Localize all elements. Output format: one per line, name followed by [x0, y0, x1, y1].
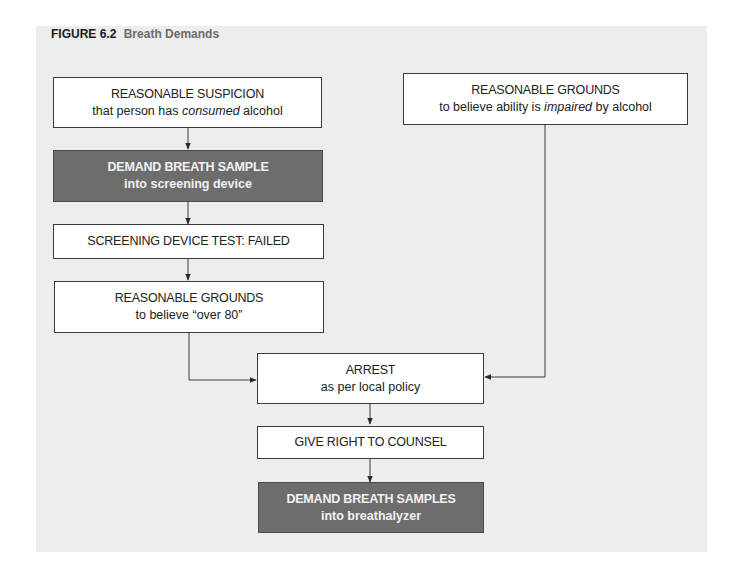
node-arrest: ARREST as per local policy	[257, 353, 484, 404]
node-heading: REASONABLE GROUNDS	[55, 290, 323, 307]
arrow-over80-to-arrest	[189, 332, 256, 380]
node-demand-breathalyzer-samples: DEMAND BREATH SAMPLES into breathalyzer	[258, 482, 484, 533]
node-heading: SCREENING DEVICE TEST: FAILED	[54, 233, 323, 250]
node-heading: REASONABLE GROUNDS	[404, 82, 687, 99]
node-subtext: to believe ability is impaired by alcoho…	[404, 99, 687, 116]
node-subtext: to believe “over 80”	[55, 307, 323, 324]
node-reasonable-grounds-impaired: REASONABLE GROUNDS to believe ability is…	[403, 73, 688, 125]
node-heading: REASONABLE SUSPICION	[54, 86, 321, 103]
node-reasonable-suspicion: REASONABLE SUSPICION that person has con…	[53, 77, 322, 128]
node-subtext: that person has consumed alcohol	[54, 103, 321, 120]
node-reasonable-grounds-over80: REASONABLE GROUNDS to believe “over 80”	[54, 281, 324, 333]
node-right-to-counsel: GIVE RIGHT TO COUNSEL	[257, 426, 484, 459]
node-subtext: into breathalyzer	[259, 508, 483, 525]
node-subtext: as per local policy	[258, 379, 483, 396]
node-heading: DEMAND BREATH SAMPLE	[54, 159, 322, 176]
node-screening-test-failed: SCREENING DEVICE TEST: FAILED	[53, 224, 324, 259]
node-heading: ARREST	[258, 362, 483, 379]
node-subtext: into screening device	[54, 176, 322, 193]
arrow-impaired-to-arrest	[485, 124, 545, 377]
node-demand-screening-sample: DEMAND BREATH SAMPLE into screening devi…	[53, 150, 323, 202]
node-heading: GIVE RIGHT TO COUNSEL	[258, 434, 483, 451]
node-heading: DEMAND BREATH SAMPLES	[259, 491, 483, 508]
